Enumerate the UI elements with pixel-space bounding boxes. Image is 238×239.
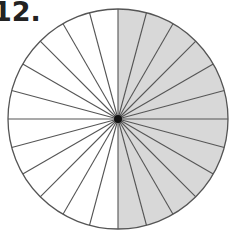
fraction-circle [0,0,238,239]
center-dot [114,115,122,123]
